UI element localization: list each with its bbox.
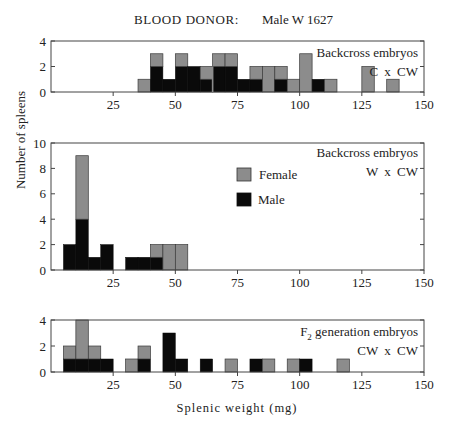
bar-female: [150, 54, 162, 67]
bar-male: [76, 219, 88, 270]
bar-female: [138, 79, 150, 92]
legend-female-label: Female: [259, 167, 297, 182]
y-tick-label: 4: [40, 34, 47, 49]
bar-male: [63, 245, 75, 270]
bar-male: [250, 359, 262, 372]
figure-title-donor: Male W 1627: [262, 12, 334, 27]
y-tick-label: 2: [40, 339, 47, 354]
x-tick-label: 100: [290, 97, 310, 112]
bar-male: [163, 333, 175, 372]
bar-male: [225, 67, 237, 93]
y-tick-label: 2: [40, 237, 47, 252]
x-tick-label: 150: [414, 97, 434, 112]
bar-separator: [212, 67, 214, 93]
bar-male: [238, 79, 250, 92]
x-tick-label: 75: [231, 377, 244, 392]
bar-male: [76, 359, 88, 372]
legend-male-swatch: [237, 193, 251, 206]
bar-male: [200, 79, 212, 92]
bar-female: [63, 346, 75, 359]
y-tick-label: 4: [40, 313, 47, 328]
bar-male: [138, 257, 150, 270]
panel-subtitle: W x CW: [366, 164, 419, 179]
bar-female: [287, 359, 299, 372]
bar-female: [76, 320, 88, 359]
x-tick-label: 125: [352, 97, 372, 112]
legend-male-label: Male: [258, 192, 285, 207]
x-axis-label: Splenic weight (mg): [176, 401, 297, 415]
figure-title-label: BLOOD DONOR:: [134, 12, 239, 27]
x-tick-label: 50: [169, 377, 182, 392]
bar-male: [63, 359, 75, 372]
bar-female: [213, 54, 225, 67]
bar-male: [101, 245, 113, 270]
bar-male: [213, 67, 225, 93]
bar-male: [163, 79, 175, 92]
x-tick-label: 100: [290, 377, 310, 392]
bar-male: [312, 79, 324, 92]
x-tick-label: 75: [231, 275, 244, 290]
y-tick-label: 0: [40, 85, 47, 100]
panel-title: Backcross embryos: [317, 145, 418, 160]
bar-male: [175, 67, 187, 93]
x-tick-label: 50: [169, 97, 182, 112]
bar-female: [262, 67, 274, 93]
bar-male: [126, 257, 138, 270]
bar-female: [138, 346, 150, 359]
bar-female: [175, 245, 187, 270]
bar-female: [225, 359, 237, 372]
bar-female: [325, 79, 337, 92]
bar-female: [200, 67, 212, 80]
bar-female: [275, 67, 287, 80]
bar-female: [287, 79, 299, 92]
bar-female: [337, 359, 349, 372]
y-tick-label: 0: [40, 263, 47, 278]
y-tick-label: 4: [40, 212, 47, 227]
bar-female: [88, 346, 100, 359]
y-tick-label: 8: [40, 161, 47, 176]
x-tick-label: 25: [107, 97, 120, 112]
panel-top-chart: 024255075100125150Backcross embryosC x C…: [40, 34, 434, 113]
bar-male: [300, 359, 312, 372]
x-tick-label: 125: [352, 377, 372, 392]
bar-female: [387, 79, 399, 92]
bar-male: [138, 359, 150, 372]
legend-female-swatch: [237, 168, 251, 181]
x-tick-label: 50: [169, 275, 182, 290]
y-tick-label: 6: [40, 186, 47, 201]
bar-female: [150, 245, 162, 258]
y-tick-label: 10: [33, 136, 46, 151]
bar-male: [88, 257, 100, 270]
bar-male: [250, 79, 262, 92]
bar-male: [88, 359, 100, 372]
bar-female: [300, 54, 312, 92]
bar-female: [175, 54, 187, 67]
legend: Female Male: [237, 167, 297, 207]
y-tick-label: 2: [40, 59, 47, 74]
x-tick-label: 150: [414, 275, 434, 290]
bar-male: [175, 359, 187, 372]
x-tick-label: 125: [352, 275, 372, 290]
panel-title: F2 generation embryos: [300, 324, 418, 342]
panel-subtitle: C x CW: [369, 64, 418, 79]
x-tick-label: 150: [414, 377, 434, 392]
bar-female: [126, 359, 138, 372]
histogram-figure: BLOOD DONOR: Male W 1627 Number of splee…: [0, 0, 450, 428]
bar-female: [163, 245, 175, 270]
bar-male: [101, 359, 113, 372]
bar-female: [225, 54, 237, 67]
x-tick-label: 25: [107, 275, 120, 290]
panel-bottom-chart: 024255075100125150F2 generation embryosC…: [40, 313, 434, 393]
panel-title: Backcross embryos: [317, 45, 418, 60]
bar-female: [262, 359, 274, 372]
bar-female: [76, 156, 88, 220]
panel-subtitle: CW x CW: [357, 343, 418, 358]
bar-male: [150, 257, 162, 270]
bar-female: [250, 67, 262, 80]
x-tick-label: 100: [290, 275, 310, 290]
panel-middle-chart: 0246810255075100125150Backcross embryosW…: [33, 136, 434, 291]
x-tick-label: 25: [107, 377, 120, 392]
bar-male: [275, 79, 287, 92]
bar-male: [188, 67, 200, 93]
y-tick-label: 0: [40, 365, 47, 380]
